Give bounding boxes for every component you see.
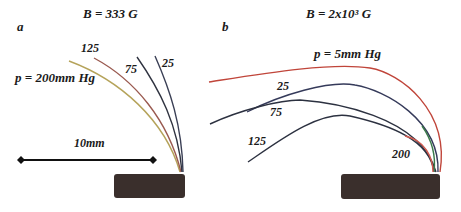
panel-a-letter: a [17, 20, 24, 33]
panel-b-label-200: 200 [392, 148, 410, 160]
electrode-b [341, 174, 440, 199]
electrode-a [114, 174, 185, 198]
panel-a-field-label: B = 333 G [83, 7, 138, 20]
scale-bar [17, 156, 157, 164]
panel-b-field-label: B = 2x10³ G [306, 7, 371, 20]
panel-b-label-75: 75 [270, 106, 282, 118]
panel-b-label-25: 25 [277, 80, 289, 92]
panel-a-label-75: 75 [125, 63, 137, 75]
panel-b-label-125: 125 [248, 135, 266, 147]
panel-a-label-125: 125 [81, 42, 99, 54]
panel-b-pressure-label: p = 5mm Hg [314, 47, 381, 60]
discharge-diagram [0, 0, 461, 212]
curve-b-75 [210, 100, 436, 172]
curve-a-125 [94, 58, 181, 172]
panel-a-label-25: 25 [162, 57, 174, 69]
curve-b-125 [248, 115, 434, 172]
panel-a-pressure-label: p = 200mm Hg [15, 71, 95, 84]
panel-b-letter: b [222, 20, 229, 33]
scale-bar-label: 10mm [74, 137, 105, 149]
